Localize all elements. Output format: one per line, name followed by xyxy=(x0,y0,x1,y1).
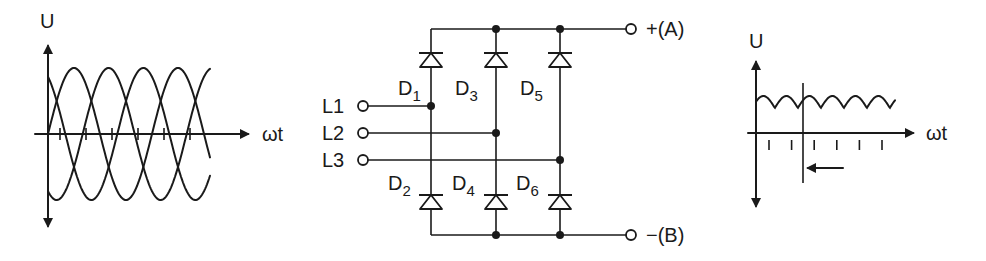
d4-label: D4 xyxy=(452,172,475,199)
d2-label: D2 xyxy=(388,172,411,199)
three-phase-voltage-graph: U ωt xyxy=(35,10,284,226)
negative-output-label: −(B) xyxy=(646,224,684,246)
d6-label: D6 xyxy=(516,172,539,199)
junction-dot xyxy=(492,129,500,137)
d5-diode-symbol xyxy=(548,53,572,67)
d5-label: D5 xyxy=(520,77,543,104)
l2-terminal xyxy=(358,128,368,138)
right-x-ticks xyxy=(769,140,882,150)
junction-dot xyxy=(427,102,435,110)
l2-label: L2 xyxy=(322,122,344,144)
l1-label: L1 xyxy=(322,95,344,117)
l3-terminal xyxy=(358,155,368,165)
l3-label: L3 xyxy=(322,149,344,171)
junction-dot xyxy=(492,25,500,33)
rectified-voltage-graph: U ωt xyxy=(748,30,948,206)
junction-dot xyxy=(492,231,500,239)
diagram-canvas: U ωt L1 L2 L3 D1 xyxy=(0,0,986,261)
d6-diode-symbol xyxy=(548,195,572,209)
bridge-rectifier-circuit: L1 L2 L3 D1 D2 D3 D4 D5 D6 +(A) −(B) xyxy=(322,18,684,246)
right-x-axis-label: ωt xyxy=(926,122,948,144)
right-y-axis-label: U xyxy=(749,30,763,52)
l1-terminal xyxy=(358,101,368,111)
left-y-axis-label: U xyxy=(40,10,54,32)
junction-dot xyxy=(556,156,564,164)
left-x-axis-label: ωt xyxy=(262,123,284,145)
junction-dot xyxy=(556,25,564,33)
positive-output-terminal xyxy=(626,24,636,34)
d4-diode-symbol xyxy=(484,195,508,209)
d1-diode-symbol xyxy=(419,53,443,67)
d2-diode-symbol xyxy=(419,195,443,209)
positive-output-label: +(A) xyxy=(646,18,684,40)
negative-output-terminal xyxy=(626,230,636,240)
junction-dot xyxy=(556,231,564,239)
ripple-waveform xyxy=(756,96,895,108)
d3-diode-symbol xyxy=(484,53,508,67)
d3-label: D3 xyxy=(455,77,478,104)
d1-label: D1 xyxy=(398,77,421,104)
